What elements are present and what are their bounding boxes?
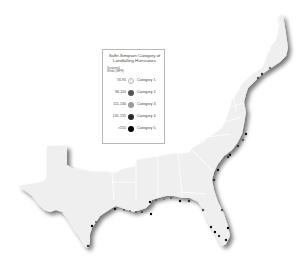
landfall-point — [149, 201, 151, 203]
legend-item-category-3: 111-130 Category 3 — [103, 101, 166, 109]
legend-item-category-4: 131-155 Category 4 — [103, 113, 166, 121]
landfall-point — [261, 73, 263, 75]
category-5-dot-icon — [128, 126, 134, 132]
landfall-point — [218, 235, 220, 237]
category-4-dot-icon — [128, 114, 134, 120]
landfall-point — [227, 227, 229, 229]
legend-item-category-1: 74-95 Category 1 — [103, 77, 166, 85]
legend-box: Saffir-Simpson Category of Landfalling H… — [102, 49, 165, 144]
legend-label: Category 2 — [137, 90, 156, 94]
legend-label: Category 3 — [137, 102, 156, 106]
category-3-dot-icon — [128, 102, 134, 108]
landfall-point — [269, 67, 271, 69]
landfall-point — [188, 200, 190, 202]
landfall-point — [242, 139, 244, 141]
landfall-point — [210, 226, 212, 228]
landfall-point — [217, 169, 219, 171]
landfall-point — [229, 154, 231, 156]
legend-range: >155 — [118, 126, 126, 130]
landfall-point — [123, 209, 125, 211]
legend-item-category-2: 96-110 Category 2 — [103, 89, 166, 97]
legend-range: 131-155 — [113, 114, 126, 118]
landfall-point — [225, 239, 227, 241]
landfall-point — [202, 209, 204, 211]
landfall-point — [155, 199, 157, 201]
landfall-point — [221, 209, 223, 211]
landfall-point — [87, 245, 89, 247]
legend-item-category-5: >155 Category 5 — [103, 125, 166, 133]
landfall-point — [129, 210, 131, 212]
legend-label: Category 1 — [137, 78, 156, 82]
legend-range: 74-95 — [117, 78, 126, 82]
legend-range: 111-130 — [113, 102, 126, 106]
category-1-dot-icon — [128, 78, 134, 84]
legend-label: Category 5 — [137, 126, 156, 130]
landfall-point — [95, 221, 97, 223]
legend-title-line2: Landfalling Hurricanes — [103, 58, 166, 63]
legend-subtitle-line2: Winds (MPH) — [107, 70, 127, 73]
landfall-point — [237, 145, 239, 147]
landfall-point — [245, 133, 247, 135]
landfall-point — [213, 179, 215, 181]
legend-range: 96-110 — [115, 90, 126, 94]
landfall-point — [163, 198, 165, 200]
landfall-point — [170, 197, 172, 199]
legend-subtitle: Sustained Winds (MPH) — [107, 67, 127, 73]
landfall-point — [150, 213, 152, 215]
legend-label: Category 4 — [137, 114, 156, 118]
landfall-point — [257, 77, 259, 79]
landfall-point — [227, 156, 229, 158]
landfall-point — [135, 211, 137, 213]
landfall-point — [214, 231, 216, 233]
landfall-point — [114, 208, 116, 210]
category-2-dot-icon — [128, 90, 134, 96]
landfall-point — [141, 211, 143, 213]
landfall-point — [91, 225, 93, 227]
legend-title: Saffir-Simpson Category of Landfalling H… — [103, 53, 166, 63]
landfall-point — [179, 200, 181, 202]
